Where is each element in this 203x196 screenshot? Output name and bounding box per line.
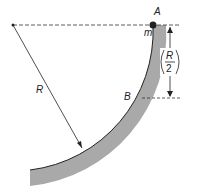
- label-a: A: [154, 6, 161, 17]
- height-arrowhead-bottom: [167, 91, 173, 97]
- label-r: R: [36, 84, 43, 95]
- diagram-svg: [0, 0, 203, 196]
- frac-num: R: [166, 50, 173, 61]
- radius-arrowhead: [77, 141, 82, 148]
- label-b: B: [124, 91, 131, 102]
- label-m: m: [144, 27, 152, 38]
- radius-arrow: [13, 25, 82, 148]
- diagram: A m R B R 2: [0, 0, 203, 196]
- track-band: [30, 25, 166, 186]
- height-arrowhead-top: [167, 27, 173, 33]
- frac-den: 2: [166, 63, 172, 74]
